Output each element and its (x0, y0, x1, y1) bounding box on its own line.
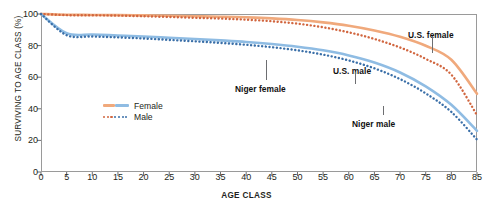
x-tick-label: 40 (233, 172, 259, 182)
y-tick-label: 100 (14, 9, 38, 19)
legend-swatch-dot (118, 116, 120, 118)
x-tick-label: 5 (54, 172, 80, 182)
x-tick-label: 30 (182, 172, 208, 182)
legend-swatch-dot (122, 116, 124, 118)
x-tick-label: 60 (336, 172, 362, 182)
chart-legend: FemaleMale (103, 100, 163, 122)
legend-swatch-left (103, 104, 115, 107)
x-tick-label: 65 (361, 172, 387, 182)
x-tick-label: 10 (79, 172, 105, 182)
x-tick-label: 75 (413, 172, 439, 182)
x-tick-label: 35 (208, 172, 234, 182)
annotation-leader-line (383, 106, 384, 115)
chart-figure: SURVIVING TO AGE CLASS (%) 020406080100 … (0, 0, 493, 208)
legend-swatch-dot (107, 116, 109, 118)
legend-item-female[interactable]: Female (103, 100, 163, 111)
annotation-niger-male: Niger male (352, 119, 395, 129)
y-tick-label: 20 (14, 135, 38, 145)
annotation-leader-line (355, 72, 356, 84)
legend-item-male[interactable]: Male (103, 111, 163, 122)
y-tick-label: 80 (14, 41, 38, 51)
x-tick-label: 20 (131, 172, 157, 182)
legend-swatch (103, 100, 129, 111)
annotation-u-s-female: U.S. female (408, 30, 454, 40)
legend-label: Female (134, 101, 163, 111)
x-tick-label: 85 (464, 172, 490, 182)
x-tick-label: 80 (438, 172, 464, 182)
legend-swatch-dot (103, 116, 105, 118)
x-tick-label: 55 (310, 172, 336, 182)
x-tick-label: 15 (105, 172, 131, 182)
legend-swatch-dot (110, 116, 112, 118)
x-axis-title: AGE CLASS (0, 191, 493, 200)
annotation-niger-female: Niger female (235, 84, 286, 94)
series-line-us-female (41, 14, 477, 94)
annotation-leader-line (432, 36, 433, 53)
legend-swatch (103, 111, 129, 122)
legend-swatch-dot (114, 116, 116, 118)
x-tick-label: 0 (28, 172, 54, 182)
legend-swatch-dot (125, 116, 127, 118)
x-axis-ticks: 0510152025303540455055606570758085 (0, 172, 493, 186)
annotation-u-s-male: U.S. male (333, 66, 371, 76)
annotation-leader-line (266, 60, 267, 80)
x-tick-label: 50 (284, 172, 310, 182)
y-tick-label: 60 (14, 72, 38, 82)
x-tick-label: 45 (259, 172, 285, 182)
legend-label: Male (134, 112, 153, 122)
legend-swatch-right (115, 104, 129, 107)
x-tick-label: 25 (156, 172, 182, 182)
x-tick-label: 70 (387, 172, 413, 182)
y-tick-label: 40 (14, 104, 38, 114)
